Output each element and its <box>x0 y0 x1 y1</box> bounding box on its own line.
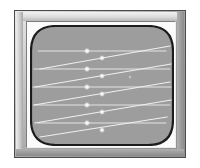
beam-spot-4 <box>99 73 105 79</box>
beam-spot-1 <box>84 48 90 54</box>
beam-spot-5 <box>84 84 90 90</box>
beam-spot-8 <box>99 109 105 115</box>
phosphor-speck <box>129 76 131 78</box>
bezel-left-highlight <box>16 12 23 156</box>
crt-trace-plot <box>30 25 174 146</box>
crt-screen[interactable] <box>30 25 174 146</box>
beam-spot-2 <box>99 55 105 61</box>
screen-mat <box>26 21 176 148</box>
monitor-case <box>14 10 186 158</box>
bezel-bottom-shadow <box>16 149 184 156</box>
beam-spot-9 <box>84 120 90 126</box>
beam-spot-3 <box>84 66 90 72</box>
beam-spot-6 <box>99 91 105 97</box>
bezel-top-highlight <box>16 12 184 21</box>
bezel-right-shadow <box>177 12 184 156</box>
beam-spot-7 <box>84 102 90 108</box>
crt-monitor-figure <box>0 0 200 168</box>
beam-spot-10 <box>99 127 105 133</box>
